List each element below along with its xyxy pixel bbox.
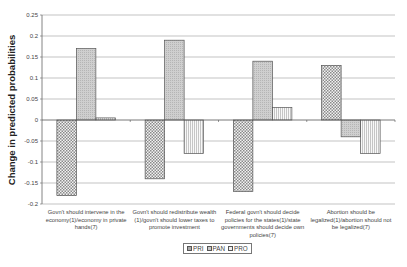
bar-pro — [272, 107, 292, 120]
bar-pro — [361, 120, 381, 154]
y-axis-title: Change in predicted probabilities — [6, 35, 17, 185]
legend-label-pro: PRO — [234, 245, 248, 252]
bar-pri — [322, 65, 342, 120]
legend-swatch-pan — [207, 246, 212, 251]
y-tick-label: -0.1 — [28, 159, 39, 165]
bar-pri — [57, 120, 77, 196]
legend-swatch-pro — [228, 246, 233, 251]
bar-pri — [145, 120, 165, 179]
y-tick-label: -0.05 — [24, 138, 38, 144]
y-tick-label: 0.2 — [30, 33, 39, 39]
legend: PRI PAN PRO — [183, 243, 252, 254]
legend-item-pan: PAN — [207, 245, 225, 252]
x-category-label: Abortion should belegalized(1)/abortion … — [308, 209, 394, 232]
y-axis-ticks: 0.250.20.150.10.050-0.05-0.1-0.15-0.2 — [24, 12, 42, 207]
bar-pan — [76, 49, 96, 120]
bar-pan — [341, 120, 361, 137]
x-category-label: Govn't should redistribute wealth(1)/gov… — [131, 209, 217, 232]
y-tick-label: -0.15 — [24, 180, 38, 186]
legend-item-pro: PRO — [228, 245, 248, 252]
y-tick-label: -0.2 — [28, 201, 39, 207]
legend-label-pri: PRI — [193, 245, 204, 252]
bar-pan — [253, 61, 273, 120]
y-tick-label: 0.1 — [30, 75, 39, 81]
y-tick-label: 0.25 — [26, 12, 38, 18]
bar-pro — [184, 120, 204, 154]
bar-pri — [233, 120, 253, 191]
legend-swatch-pri — [187, 246, 192, 251]
x-category-label: Federal govn't should decidepolicies for… — [220, 209, 306, 239]
y-tick-label: 0.15 — [26, 54, 38, 60]
legend-label-pan: PAN — [213, 245, 225, 252]
legend-item-pri: PRI — [187, 245, 204, 252]
bars — [57, 40, 395, 195]
y-tick-label: 0.05 — [26, 96, 38, 102]
y-tick-label: 0 — [35, 117, 39, 123]
bar-pan — [165, 40, 185, 120]
x-category-label: Govn't should intervene in theeconomy(1)… — [43, 209, 129, 232]
